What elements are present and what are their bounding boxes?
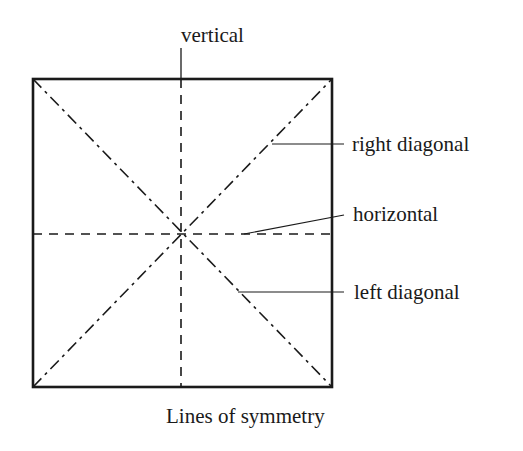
label-left-diagonal: left diagonal xyxy=(354,280,460,304)
label-right-diagonal: right diagonal xyxy=(352,132,469,156)
horizontal-leader-line xyxy=(244,215,344,234)
label-horizontal: horizontal xyxy=(353,202,438,226)
figure-caption: Lines of symmetry xyxy=(166,404,325,428)
label-vertical: vertical xyxy=(181,23,244,47)
symmetry-diagram: vertical right diagonal horizontal left … xyxy=(0,0,523,451)
